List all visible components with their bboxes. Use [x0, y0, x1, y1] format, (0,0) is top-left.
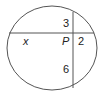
chord-diagram: 3 x P 2 6: [0, 0, 109, 96]
label-bottom-segment: 6: [63, 63, 69, 75]
label-intersection-p: P: [62, 35, 70, 47]
label-left-segment: x: [22, 35, 29, 47]
label-right-segment: 2: [78, 35, 84, 47]
label-top-segment: 3: [63, 17, 69, 29]
circle: [7, 6, 97, 90]
